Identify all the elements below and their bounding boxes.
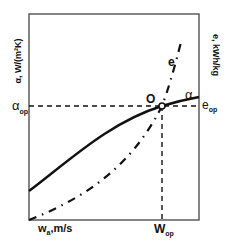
y-axis-left-label: α, W/(m²K) <box>13 31 23 91</box>
chart-canvas <box>0 0 226 247</box>
optimal-point-marker <box>159 103 165 109</box>
alpha-curve-label: α <box>185 87 193 102</box>
w-op-tick-label: Wop <box>154 222 174 237</box>
optimal-point-label: O <box>146 92 155 106</box>
e-curve-label: e <box>168 55 175 69</box>
e-op-tick-label: eop <box>202 98 217 113</box>
alpha-curve <box>29 97 199 191</box>
e-curve <box>29 42 181 220</box>
plot-frame <box>29 14 199 220</box>
x-axis-label: wa,m/s <box>38 222 72 236</box>
y-axis-right-label: e, kWh/kg <box>211 25 221 85</box>
alpha-op-tick-label: αop <box>12 98 28 115</box>
